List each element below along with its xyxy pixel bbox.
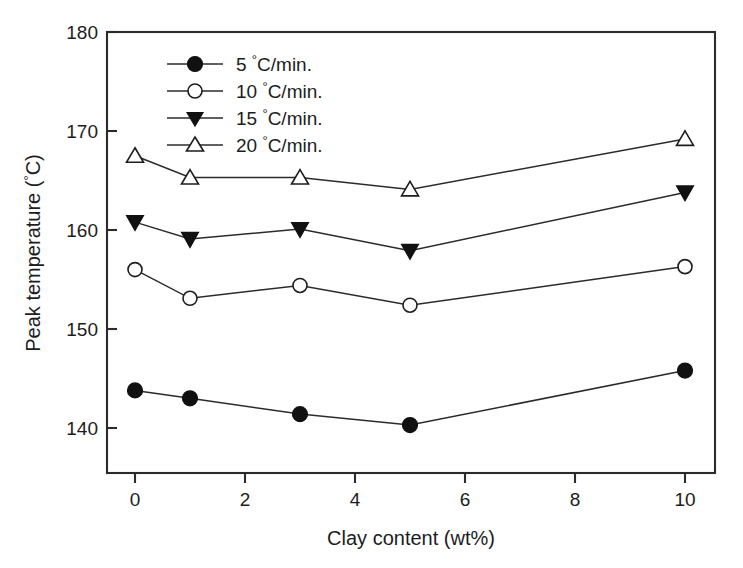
y-axis-title-tail: C) <box>22 154 44 175</box>
data-series-10 <box>128 260 692 313</box>
open-circle-marker <box>128 263 142 277</box>
filled-triangle-down-icon <box>187 113 203 127</box>
legend-label-15: 15 °C/min. <box>236 106 323 129</box>
legend-label-5: 5 °C/min. <box>236 52 312 75</box>
filled-circle-marker <box>293 407 308 422</box>
open-triangle-up-marker <box>127 148 144 163</box>
y-axis-title-main: Peak temperature ( <box>22 180 44 352</box>
y-tick-label: 160 <box>66 220 98 241</box>
legend-entry-15: 15 °C/min. <box>167 106 323 129</box>
chart-figure: 180 170 160 150 140 0 2 4 6 8 10 Clay co… <box>0 0 743 568</box>
x-tick-label: 6 <box>460 489 471 510</box>
filled-circle-marker <box>403 418 418 433</box>
filled-circle-icon <box>188 57 203 72</box>
x-tick-label: 8 <box>570 489 581 510</box>
legend-entry-20: 20 °C/min. <box>167 133 323 156</box>
filled-circle-marker <box>128 383 143 398</box>
filled-triangle-down-marker <box>182 232 199 247</box>
y-tick-label: 140 <box>66 418 98 439</box>
filled-circle-marker <box>183 391 198 406</box>
x-axis-title: Clay content (wt%) <box>327 527 495 549</box>
legend-entry-5: 5 °C/min. <box>167 52 312 75</box>
series-line-15 <box>135 192 685 250</box>
y-axis-tick-labels: 180 170 160 150 140 <box>66 22 98 439</box>
data-series-20 <box>127 131 694 196</box>
legend-label-20: 20 °C/min. <box>236 133 323 156</box>
filled-triangle-down-marker <box>127 216 144 231</box>
open-circle-marker <box>183 291 197 305</box>
x-tick-label: 0 <box>130 489 141 510</box>
x-tick-label: 10 <box>674 489 695 510</box>
open-circle-icon <box>188 84 202 98</box>
open-circle-marker <box>293 278 307 292</box>
filled-circle-marker <box>678 363 693 378</box>
legend-label-10: 10 °C/min. <box>236 79 323 102</box>
data-series-5 <box>128 363 693 432</box>
open-triangle-up-marker <box>677 131 694 146</box>
open-triangle-up-icon <box>187 137 204 151</box>
y-tick-label: 170 <box>66 121 98 142</box>
chart-legend: 5 °C/min. 10 °C/min. 15 °C/min. <box>167 52 323 156</box>
x-tick-label: 4 <box>350 489 361 510</box>
svg-text:Peak temperature (°C): Peak temperature (°C) <box>21 154 44 352</box>
y-axis-title: Peak temperature (°C) <box>21 154 44 352</box>
x-tick-label: 2 <box>240 489 251 510</box>
peak-temperature-line-chart: 180 170 160 150 140 0 2 4 6 8 10 Clay co… <box>0 0 743 568</box>
y-tick-label: 180 <box>66 22 98 43</box>
x-axis-ticks <box>135 473 685 483</box>
series-line-5 <box>135 371 685 425</box>
data-series-15 <box>127 186 694 259</box>
y-axis-ticks <box>107 32 117 428</box>
filled-triangle-down-marker <box>402 244 419 259</box>
legend-entry-10: 10 °C/min. <box>167 79 323 102</box>
y-tick-label: 150 <box>66 319 98 340</box>
open-circle-marker <box>678 260 692 274</box>
open-circle-marker <box>403 298 417 312</box>
x-axis-tick-labels: 0 2 4 6 8 10 <box>130 489 696 510</box>
series-layer <box>127 131 694 433</box>
